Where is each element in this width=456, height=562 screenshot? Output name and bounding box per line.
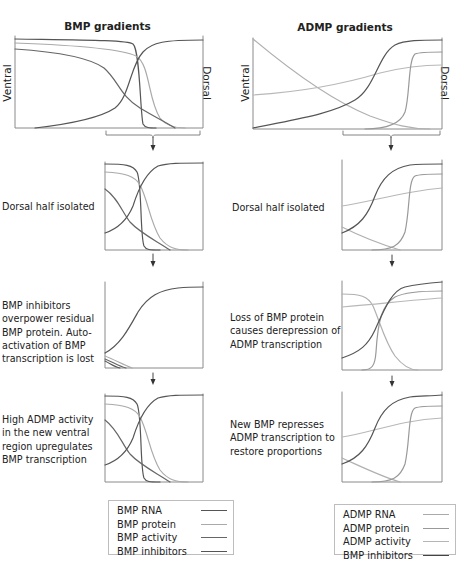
legend-label: ADMP RNA [343,509,396,520]
legend-label: ADMP activity [343,536,411,547]
legend-swatch [201,510,227,511]
legend-label: BMP RNA [117,505,162,516]
bmp-legend: BMP RNA BMP protein BMP activity BMP inh… [108,500,234,555]
bmp-step1-plot [105,162,203,267]
legend-item-admp-protein: ADMP protein [343,522,449,536]
legend-swatch [423,555,449,556]
admp-step3-plot [342,392,442,482]
admp-initial-plot [253,38,442,151]
legend-swatch [201,524,227,525]
legend-item-bmp-inhibitors: BMP inhibitors [117,545,227,559]
legend-item-admp-bmp-inhibitors: BMP inhibitors [343,549,449,562]
legend-item-admp-rna: ADMP RNA [343,508,449,522]
bmp-initial-plot [15,36,203,151]
legend-label: BMP protein [117,519,176,530]
admp-step1-plot [342,160,442,267]
admp-step2-plot [342,281,442,387]
legend-item-bmp-protein: BMP protein [117,518,227,532]
legend-swatch [423,514,449,515]
legend-swatch [423,528,449,529]
legend-label: BMP inhibitors [343,550,413,561]
legend-item-bmp-activity: BMP activity [117,531,227,545]
legend-label: BMP inhibitors [117,546,187,557]
bmp-step3-plot [105,394,203,482]
legend-label: ADMP protein [343,523,410,534]
legend-swatch [423,541,449,542]
legend-item-bmp-rna: BMP RNA [117,504,227,518]
legend-item-admp-activity: ADMP activity [343,535,449,549]
bmp-step2-plot [105,282,203,385]
admp-legend: ADMP RNA ADMP protein ADMP activity BMP … [334,504,456,555]
legend-swatch [201,551,227,552]
legend-label: BMP activity [117,532,177,543]
legend-swatch [201,537,227,538]
